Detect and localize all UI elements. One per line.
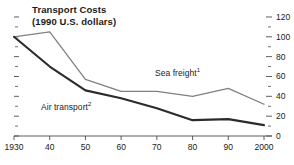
data-series-group [14,32,264,125]
y-axis-tick-label: 20 [276,111,286,121]
y-axis-tick-label: 40 [276,91,286,101]
x-axis-tick-label: 70 [152,142,162,152]
x-axis-tick-label: 50 [81,142,91,152]
y-axis-tick-label: 80 [276,52,286,62]
y-axis-tick-label: 120 [276,12,290,22]
y-axis-tick-label: 60 [276,71,286,81]
x-axis-tick-label: 1930 [5,142,24,152]
x-axis-tick-label: 80 [188,142,198,152]
tick-labels-group: 02040608010012019304050607080902000 [5,12,291,152]
series-line-air-transport [14,37,264,125]
y-axis-tick-label: 0 [276,131,281,141]
plot-area: 02040608010012019304050607080902000 [0,0,294,165]
x-axis-tick-label: 60 [116,142,126,152]
x-axis-tick-label: 2000 [255,142,274,152]
transport-costs-chart: Transport Costs (1990 U.S. dollars) Sea … [0,0,294,165]
y-axis-tick-label: 100 [276,32,290,42]
x-axis-tick-label: 40 [45,142,55,152]
x-axis-tick-label: 90 [224,142,234,152]
